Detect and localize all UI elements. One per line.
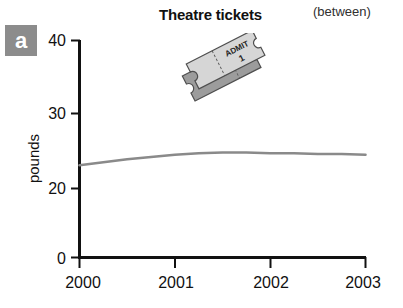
- y-tick-label-0: 0: [57, 250, 66, 267]
- data-series-line: [80, 153, 366, 166]
- x-tick-label-2002: 2002: [253, 274, 289, 291]
- y-tick-label-20: 20: [48, 180, 66, 197]
- x-tick-label-2003: 2003: [345, 274, 381, 291]
- x-tick-label-2001: 2001: [158, 274, 194, 291]
- line-chart-plot: 40 30 20 0 2000 2001 2002 2003: [0, 0, 403, 308]
- x-tick-label-2000: 2000: [65, 274, 101, 291]
- y-tick-label-40: 40: [48, 32, 66, 49]
- chart-panel: a Theatre tickets (between) pounds ADMIT…: [0, 0, 403, 308]
- y-tick-label-30: 30: [48, 105, 66, 122]
